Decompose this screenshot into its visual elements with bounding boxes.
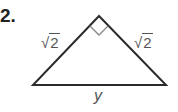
right-triangle-figure <box>0 0 178 112</box>
sqrt-symbol: √ <box>41 35 49 50</box>
sqrt-symbol: √ <box>134 35 142 50</box>
left-leg-label: √2 <box>41 33 60 50</box>
base-label: y <box>94 88 102 104</box>
right-angle-marker <box>90 26 108 35</box>
right-leg-label: √2 <box>134 33 153 50</box>
